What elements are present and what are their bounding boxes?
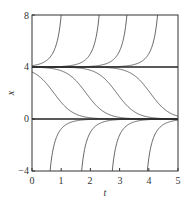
- x-tick-label-3: 3: [118, 175, 123, 186]
- x-tick-label-1: 1: [59, 175, 64, 186]
- solution-curves: [32, 15, 178, 171]
- y-tick-label-8: 8: [24, 10, 29, 21]
- solution-curve-approach-1: [50, 119, 178, 171]
- solution-curve-blowup-3: [32, 15, 127, 67]
- solution-curve-approach-4: [147, 120, 178, 171]
- solution-curve-transition-4: [32, 67, 178, 116]
- x-tick-label-5: 5: [176, 175, 181, 186]
- solution-curve-blowup-2: [32, 15, 99, 67]
- solution-curves-chart: 8 4 0 −4 0 1 2 3 4 5 t x: [0, 0, 188, 206]
- y-tick-label-neg4: −4: [18, 165, 29, 176]
- x-axis-label: t: [104, 187, 107, 198]
- y-tick-label-0: 0: [24, 113, 29, 124]
- y-axis-label: x: [5, 90, 16, 96]
- solution-curve-blowup-1: [32, 15, 61, 66]
- solution-curve-approach-3: [112, 119, 178, 171]
- y-tick-label-4: 4: [24, 61, 29, 72]
- x-tick-label-2: 2: [88, 175, 93, 186]
- solution-curve-approach-2: [82, 119, 178, 171]
- x-tick-label-0: 0: [30, 175, 35, 186]
- x-tick-label-4: 4: [147, 175, 152, 186]
